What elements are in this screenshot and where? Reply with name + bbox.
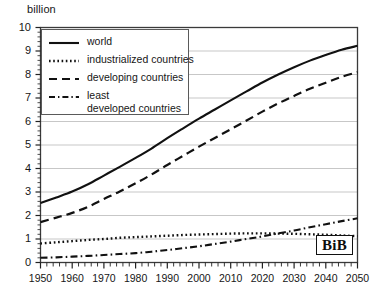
legend-item-least-developed: least: [48, 88, 109, 102]
legend-item-world: world: [48, 34, 112, 48]
population-projection-chart: billion 012345678910 1950196019701980199…: [0, 0, 378, 292]
chart-legend: world industrialized countries developin…: [41, 29, 189, 115]
legend-swatch-dashdot-icon: [48, 89, 80, 101]
legend-swatch-dashed-icon: [48, 71, 80, 83]
legend-swatch-solid-icon: [48, 35, 80, 47]
series-line-industrialized-countries: [41, 233, 358, 243]
y-axis-ticks: [36, 28, 41, 263]
series-line-least-developed-countries: [41, 218, 358, 257]
legend-label-least: least: [87, 89, 109, 101]
x-axis-ticks: [41, 263, 358, 269]
legend-item-industrialized: industrialized countries: [48, 52, 194, 66]
legend-label-developing: developing countries: [87, 71, 183, 83]
legend-label-world: world: [87, 35, 112, 47]
legend-label-industrialized: industrialized countries: [87, 53, 194, 65]
legend-label-least-line2: developed countries: [87, 102, 181, 114]
bib-logo: BiB: [316, 235, 353, 255]
legend-swatch-dotted-icon: [48, 53, 80, 65]
legend-item-developing: developing countries: [48, 70, 183, 84]
